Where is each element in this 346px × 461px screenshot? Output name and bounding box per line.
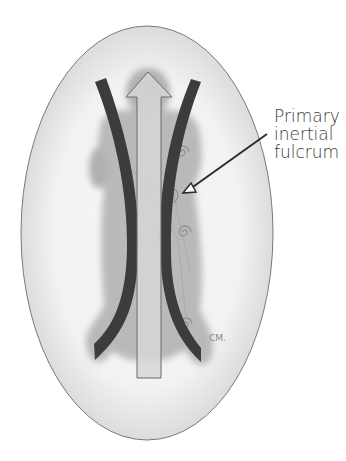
annotation-label: Primary inertial fulcrum xyxy=(274,107,340,161)
annotation-line-1: Primary xyxy=(274,107,340,125)
annotation-line-2: inertial xyxy=(274,125,340,143)
signature: CM. xyxy=(209,333,226,343)
diagram-figure: CM. xyxy=(0,0,346,461)
annotation-line-3: fulcrum xyxy=(274,143,340,161)
